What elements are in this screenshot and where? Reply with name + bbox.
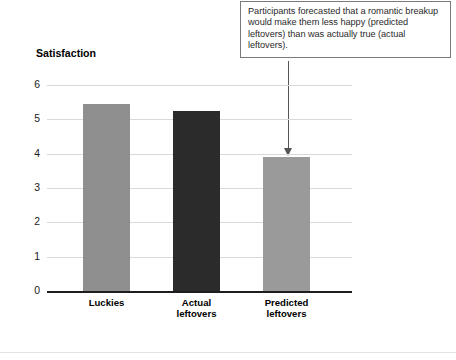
bar-predicted-leftovers xyxy=(263,157,310,291)
x-label-luckies: Luckies xyxy=(63,297,150,308)
x-label-predicted-leftovers-line1: Predicted xyxy=(243,297,330,308)
gridline-6 xyxy=(47,85,352,86)
y-tick-label-5: 5 xyxy=(34,114,40,124)
x-label-actual-leftovers-line1: Actual xyxy=(153,297,240,308)
x-axis-line xyxy=(47,291,352,293)
annotation-text: Participants forecasted that a romantic … xyxy=(248,6,438,50)
x-label-predicted-leftovers-line2: leftovers xyxy=(243,308,330,319)
x-label-luckies-line1: Luckies xyxy=(63,297,150,308)
y-tick-label-3: 3 xyxy=(34,183,40,193)
x-label-actual-leftovers-line2: leftovers xyxy=(153,308,240,319)
plot-area: 6 5 4 3 2 1 0 Luckies Actual leftovers P… xyxy=(47,85,352,291)
y-tick-label-4: 4 xyxy=(34,149,40,159)
x-label-predicted-leftovers: Predicted leftovers xyxy=(243,297,330,319)
y-tick-label-6: 6 xyxy=(34,80,40,90)
footer-rule xyxy=(0,352,456,353)
x-label-actual-leftovers: Actual leftovers xyxy=(153,297,240,319)
y-tick-label-1: 1 xyxy=(34,252,40,262)
bar-chart-figure: Participants forecasted that a romantic … xyxy=(0,0,456,360)
annotation-callout: Participants forecasted that a romantic … xyxy=(240,1,451,58)
y-axis-title: Satisfaction xyxy=(36,47,96,59)
bar-actual-leftovers xyxy=(173,111,220,291)
y-tick-label-0: 0 xyxy=(34,286,40,296)
y-tick-label-2: 2 xyxy=(34,217,40,227)
bar-luckies xyxy=(83,104,130,291)
